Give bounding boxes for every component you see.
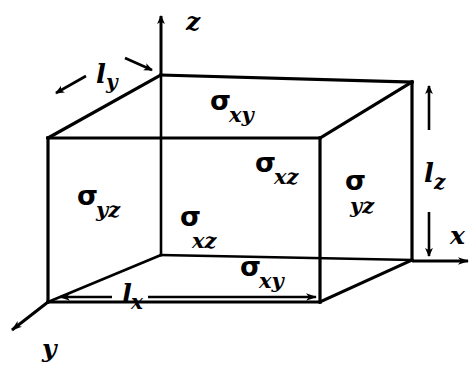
y-axis-arrow xyxy=(12,302,48,330)
length-z-label: l z xyxy=(424,158,446,194)
z-axis-label: z xyxy=(185,7,201,36)
sigma-symbol-left: σ xyxy=(77,180,98,211)
length-z-subscript: z xyxy=(433,170,446,194)
sigma-subscript-right: yz xyxy=(349,193,375,218)
x-axis-label: x xyxy=(449,221,466,250)
face-label-left: σ yz xyxy=(77,180,121,222)
y-axis-label: y xyxy=(41,334,58,363)
sigma-symbol-bottom: σ xyxy=(240,251,261,282)
box-diagram-svg: z x y l y l z xyxy=(0,0,473,367)
sigma-symbol-top: σ xyxy=(210,85,231,116)
length-y-label: l y xyxy=(96,59,119,94)
sigma-symbol-right: σ xyxy=(345,165,366,196)
length-x-label: l x xyxy=(122,279,144,314)
face-label-front: σ xz xyxy=(180,201,218,253)
box-edge-inner-bottom-diagonal xyxy=(48,255,161,302)
face-label-right: σ yz xyxy=(345,165,375,218)
length-y-symbol: l xyxy=(96,59,106,89)
sigma-subscript-front: xz xyxy=(191,228,218,253)
box-edge-back-top xyxy=(161,75,412,82)
sigma-subscript-top: xy xyxy=(228,102,256,127)
length-y-subscript: y xyxy=(105,70,119,94)
sigma-subscript-bottom: xy xyxy=(258,268,286,293)
face-label-back: σ xz xyxy=(255,147,300,189)
face-label-top: σ xy xyxy=(210,85,256,127)
sigma-symbol-back: σ xyxy=(255,147,276,178)
length-z-symbol: l xyxy=(424,158,434,188)
box-edge-bottom-right-diagonal xyxy=(320,260,412,302)
figure-container: z x y l y l z xyxy=(0,0,473,367)
box-edge-top-right-diagonal xyxy=(320,82,412,138)
sigma-subscript-back: xz xyxy=(273,164,300,189)
box-edge-inner-back-bottom xyxy=(161,255,412,260)
sigma-subscript-left: yz xyxy=(95,197,121,222)
length-x-subscript: x xyxy=(130,290,144,314)
